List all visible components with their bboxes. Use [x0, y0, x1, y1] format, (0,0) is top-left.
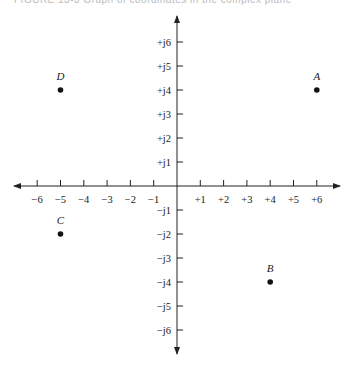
point-label: C	[57, 214, 65, 226]
x-tick-label: −3	[102, 194, 113, 205]
x-tick-label: −5	[55, 194, 66, 205]
y-tick-label: +j1	[157, 157, 171, 168]
y-tick-label: −j5	[157, 301, 171, 312]
y-tick-label: −j1	[157, 205, 171, 216]
y-tick-label: +j2	[157, 133, 171, 144]
y-tick-label: +j4	[157, 85, 172, 96]
point-label: B	[267, 262, 274, 274]
x-tick-label: +5	[288, 194, 299, 205]
point-label: D	[56, 70, 65, 82]
x-tick-label: −4	[78, 194, 90, 205]
x-tick-label: −1	[148, 194, 159, 205]
y-tick-label: −j2	[157, 229, 171, 240]
y-tick-label: −j6	[157, 325, 171, 336]
y-tick-label: +j6	[157, 37, 171, 48]
complex-plane-diagram: −6−5−4−3−2−1+1+2+3+4+5+6 +j6+j5+j4+j3+j2…	[0, 0, 353, 369]
point-c	[58, 231, 64, 237]
data-points: ABCD	[56, 70, 321, 285]
y-tick-label: −j3	[157, 253, 171, 264]
y-tick-label: +j5	[157, 61, 171, 72]
point-a	[314, 87, 320, 93]
x-tick-label: +4	[265, 194, 277, 205]
point-d	[58, 87, 64, 93]
x-tick-label: −2	[125, 194, 136, 205]
point-b	[267, 279, 273, 285]
y-tick-label: −j4	[157, 277, 172, 288]
x-tick-label: +1	[195, 194, 206, 205]
y-tick-label: +j3	[157, 109, 171, 120]
point-label: A	[312, 70, 320, 82]
x-tick-label: −6	[32, 194, 43, 205]
x-tick-label: +6	[311, 194, 322, 205]
x-tick-label: +3	[241, 194, 252, 205]
x-tick-label: +2	[218, 194, 229, 205]
